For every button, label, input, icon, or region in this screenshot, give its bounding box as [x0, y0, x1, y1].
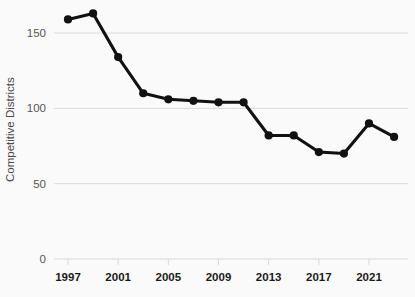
y-tick-label: 150: [27, 27, 46, 39]
y-axis-tick-labels: 050100150: [27, 27, 46, 265]
y-tick-label: 0: [40, 253, 46, 265]
x-tick-label: 2021: [356, 271, 382, 283]
series-markers: [64, 9, 398, 157]
x-axis-tick-marks: [68, 259, 369, 265]
data-point-2003: [139, 89, 147, 97]
data-point-2017: [315, 148, 323, 156]
x-tick-label: 2005: [156, 271, 182, 283]
data-point-2019: [340, 149, 348, 157]
data-point-2015: [290, 131, 298, 139]
x-tick-label: 1997: [55, 271, 81, 283]
data-point-2011: [239, 98, 247, 106]
y-tick-label: 100: [27, 102, 46, 114]
data-point-2001: [114, 53, 122, 61]
data-point-1997: [64, 15, 72, 23]
data-point-2013: [265, 131, 273, 139]
series-line-competitive-districts: [68, 13, 394, 153]
x-axis-tick-labels: 1997200120052009201320172021: [55, 271, 382, 283]
data-point-2009: [214, 98, 222, 106]
y-axis-title: Competitive Districts: [4, 77, 16, 182]
line-chart: 050100150 1997200120052009201320172021 C…: [0, 0, 415, 297]
data-point-2021: [365, 119, 373, 127]
y-tick-label: 50: [33, 178, 46, 190]
x-tick-label: 2017: [306, 271, 332, 283]
data-point-2023: [390, 133, 398, 141]
x-tick-label: 2013: [256, 271, 282, 283]
x-tick-label: 2009: [206, 271, 232, 283]
chart-container: 050100150 1997200120052009201320172021 C…: [0, 0, 415, 297]
data-point-2007: [189, 97, 197, 105]
data-point-2005: [164, 95, 172, 103]
data-point-1999: [89, 9, 97, 17]
x-tick-label: 2001: [105, 271, 131, 283]
gridlines: [54, 33, 408, 259]
